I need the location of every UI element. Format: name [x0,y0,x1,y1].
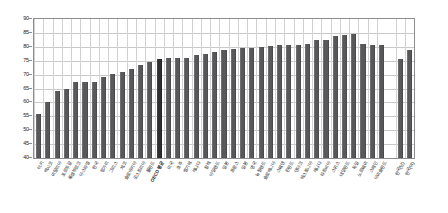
bar [175,58,180,158]
y-tick-label: 45 [7,140,29,146]
y-tick-label: 60 [7,98,29,104]
bar [92,82,97,159]
bar [184,58,189,158]
y-tick-label: 55 [7,112,29,118]
bar [101,77,106,158]
x-tick-label: 일본 [221,161,229,170]
x-tick-label: 호주 [175,161,183,170]
x-tick-label: 영국 [249,161,257,170]
bar [277,45,282,158]
y-tick-mark [28,60,32,61]
bar [221,50,226,158]
x-tick-label: 헝가리 [99,161,109,174]
y-tick-label: 80 [7,43,29,49]
y-tick-mark [28,115,32,116]
x-axis-labels: 터키멕시코이탈리아포르투갈룩셈부르크아스라엘한국헝가리그리스체코슬로바키아오스트… [33,159,415,213]
bar [407,50,412,158]
bar [351,34,356,159]
y-tick-label: 85 [7,29,29,35]
bar [268,46,273,158]
y-tick-label: 90 [7,15,29,21]
bar [212,52,217,158]
bar-series [34,19,414,158]
bar [379,45,384,158]
x-tick-label: 독일 [351,161,359,170]
x-tick-label: 프랑스 [229,161,239,174]
y-tick-mark [28,143,32,144]
y-tick-mark [28,46,32,47]
y-tick-label: 75 [7,57,29,63]
bar [259,47,264,159]
x-tick-label: 핀란드 [285,161,295,174]
y-tick-label: 65 [7,85,29,91]
bar [333,36,338,158]
y-tick-label: 40 [7,154,29,160]
bar [157,59,162,158]
bar [45,102,50,158]
y-tick-mark [28,88,32,89]
bar [286,45,291,158]
y-tick-mark [28,18,32,19]
y-tick-mark [28,129,32,130]
y-tick-mark [28,157,32,158]
bar [110,74,115,158]
bar [64,89,69,158]
bar [296,45,301,158]
bar [120,72,125,159]
bar [138,65,143,158]
y-tick-label: 50 [7,126,29,132]
bar [82,82,87,158]
y-tick-mark [28,32,32,33]
x-tick-label: 터키 [36,161,44,170]
bar [249,48,254,158]
x-tick-label: 벨기에 [183,161,193,174]
y-tick-label: 70 [7,71,29,77]
bar [231,49,236,158]
bar [240,48,245,158]
bar [73,82,78,158]
y-tick-mark [28,101,32,102]
chart-figure: 9085807570656055504540 터키멕시코이탈리아포르투갈룩셈부르… [0,0,448,213]
bar [166,58,171,158]
bar [55,91,60,158]
bar [323,40,328,158]
bar [370,45,375,158]
bar [129,69,134,158]
bar [36,114,41,159]
x-tick-label: 그리스 [108,161,118,174]
x-tick-label: 일본 [240,161,248,170]
bar [305,44,310,158]
x-tick-label: 한국 [92,161,100,170]
bar [203,54,208,158]
bar [342,35,347,158]
bar [194,55,199,158]
x-tick-label: 미국 [166,161,174,170]
x-tick-label: 캐나다 [192,161,202,174]
x-tick-label: 스웨덴 [275,161,285,174]
bar [147,62,152,159]
x-tick-label: 체코 [119,161,127,170]
bar [314,40,319,158]
plot-area [33,18,415,159]
x-tick-label: 칠레 [203,161,211,170]
bar [398,59,403,158]
y-tick-mark [28,74,32,75]
bar [360,44,365,158]
